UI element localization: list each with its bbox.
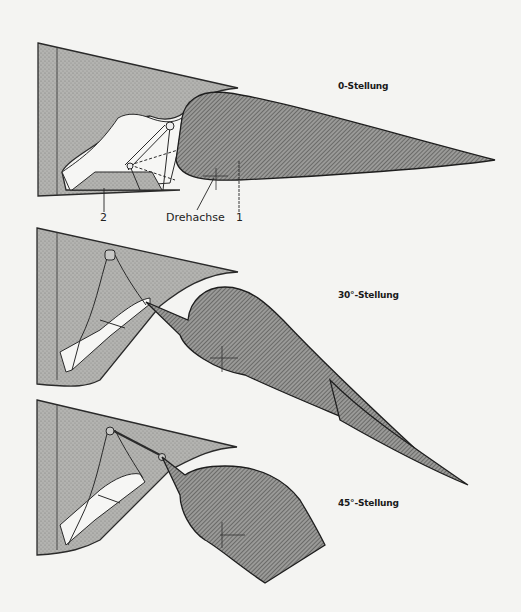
leader-drehachse	[197, 178, 214, 210]
position-45-group	[37, 400, 325, 583]
position-label-30: 30°-Stellung	[338, 290, 399, 300]
moving-surface-45	[162, 457, 325, 583]
callout-part-1: 1	[236, 211, 243, 224]
diagram-canvas	[0, 0, 521, 612]
callout-part-2: 2	[100, 211, 107, 224]
callout-drehachse: Drehachse	[166, 211, 225, 224]
moving-surface-0	[176, 92, 495, 180]
position-label-0: 0-Stellung	[338, 81, 388, 91]
position-0-group	[38, 43, 495, 212]
position-label-45: 45°-Stellung	[338, 498, 399, 508]
